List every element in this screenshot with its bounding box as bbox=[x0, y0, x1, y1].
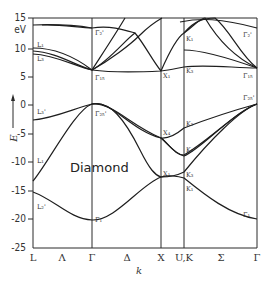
svg-text:5: 5 bbox=[20, 71, 26, 82]
svg-text:k: k bbox=[136, 265, 142, 276]
svg-text:-15: -15 bbox=[11, 185, 26, 196]
bands bbox=[33, 18, 257, 220]
svg-text:-25: -25 bbox=[11, 242, 26, 253]
svg-text:Γ₂': Γ₂' bbox=[95, 29, 104, 37]
svg-text:Γ₁: Γ₁ bbox=[243, 211, 251, 219]
svg-text:L₁: L₁ bbox=[37, 41, 44, 49]
svg-text:X₁: X₁ bbox=[163, 72, 171, 80]
svg-text:X₄: X₄ bbox=[163, 129, 171, 137]
svg-text:Γ₂₅': Γ₂₅' bbox=[95, 110, 107, 118]
svg-text:Γ₁₅: Γ₁₅ bbox=[95, 74, 105, 82]
svg-text:K₁: K₁ bbox=[186, 185, 194, 193]
svg-text:-10: -10 bbox=[11, 156, 26, 167]
svg-text:X₁: X₁ bbox=[163, 170, 171, 178]
svg-text:Γ: Γ bbox=[254, 252, 261, 263]
svg-text:K₃: K₃ bbox=[186, 67, 194, 75]
svg-text:Γ₂': Γ₂' bbox=[243, 31, 252, 39]
svg-text:Γ₁₅: Γ₁₅ bbox=[243, 72, 253, 80]
svg-text:Γ: Γ bbox=[89, 252, 96, 263]
band-structure-chart: 15 eV 10 5 0 -5 -10 -15 -20 -25 E L Λ Γ … bbox=[0, 0, 267, 283]
energy-axis-arrow: E bbox=[8, 94, 19, 143]
svg-text:15: 15 bbox=[15, 12, 26, 23]
svg-text:L₂': L₂' bbox=[37, 203, 46, 211]
svg-text:eV: eV bbox=[14, 24, 27, 35]
svg-text:Σ: Σ bbox=[217, 252, 224, 263]
svg-text:Γ₂₅': Γ₂₅' bbox=[243, 94, 255, 102]
svg-text:0: 0 bbox=[20, 99, 26, 110]
svg-text:K₁: K₁ bbox=[186, 35, 194, 43]
y-ticks bbox=[28, 18, 33, 219]
svg-text:Δ: Δ bbox=[123, 252, 130, 263]
svg-text:K₂: K₂ bbox=[186, 120, 194, 128]
svg-text:E: E bbox=[8, 134, 19, 143]
y-tick-labels: 15 eV 10 5 0 -5 -10 -15 -20 -25 bbox=[11, 12, 27, 253]
svg-text:-20: -20 bbox=[11, 213, 26, 224]
svg-text:L₃: L₃ bbox=[37, 55, 44, 63]
svg-text:L₃': L₃' bbox=[37, 108, 46, 116]
svg-text:Γ₁: Γ₁ bbox=[95, 216, 103, 224]
svg-text:L: L bbox=[30, 252, 37, 263]
svg-text:10: 10 bbox=[15, 43, 27, 54]
svg-text:K₃: K₃ bbox=[186, 171, 194, 179]
x-tick-labels: L Λ Γ Δ X U,K Σ Γ k bbox=[30, 252, 261, 276]
svg-text:K₁: K₁ bbox=[186, 146, 194, 154]
svg-text:Λ: Λ bbox=[57, 252, 66, 263]
svg-text:U,K: U,K bbox=[175, 252, 194, 263]
svg-text:X: X bbox=[157, 252, 165, 263]
chart-title: Diamond bbox=[70, 160, 129, 175]
svg-text:L₁: L₁ bbox=[37, 157, 44, 165]
